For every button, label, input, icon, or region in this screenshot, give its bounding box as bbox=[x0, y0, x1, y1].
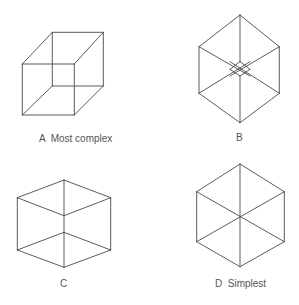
label-c: C bbox=[60, 278, 67, 289]
label-b: B bbox=[236, 132, 243, 143]
figure-a-necker-cube bbox=[22, 32, 103, 115]
edge-line bbox=[199, 62, 250, 94]
edge-line bbox=[199, 47, 250, 76]
edge-line bbox=[199, 93, 240, 122]
edge-line bbox=[17, 180, 64, 198]
edge-line bbox=[22, 32, 52, 64]
figure-c-cube bbox=[17, 180, 110, 267]
edge-line bbox=[230, 47, 279, 76]
label-a: A Most complex bbox=[39, 133, 112, 144]
edge-line bbox=[230, 62, 279, 94]
figure-d-hexagon bbox=[197, 164, 285, 267]
edge-line bbox=[64, 250, 111, 267]
edge-line bbox=[64, 232, 111, 250]
edge-line bbox=[74, 32, 103, 64]
edge-line bbox=[240, 164, 284, 192]
edge-line bbox=[74, 86, 103, 115]
edge-line bbox=[197, 242, 240, 267]
label-d: D Simplest bbox=[215, 278, 266, 289]
edge-line bbox=[240, 242, 284, 267]
edge-line bbox=[17, 198, 64, 216]
edge-line bbox=[240, 93, 279, 122]
edge-line bbox=[17, 250, 64, 267]
figure-canvas: A Most complex B C D Simplest bbox=[0, 0, 299, 305]
edge-line bbox=[240, 15, 279, 47]
figure-b-corner-view-cube bbox=[199, 15, 279, 123]
edge-line bbox=[64, 180, 111, 198]
edge-line bbox=[197, 164, 240, 192]
edge-line bbox=[199, 15, 240, 47]
edge-line bbox=[17, 232, 64, 250]
edge-line bbox=[22, 86, 52, 115]
edge-line bbox=[64, 198, 111, 216]
